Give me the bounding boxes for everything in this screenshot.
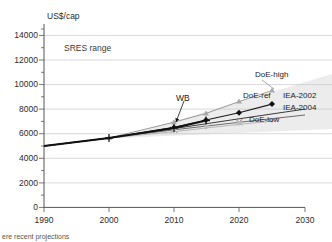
series-label-iea-2004: IEA-2004 — [283, 104, 316, 112]
ytick-label-12000: 12000 — [0, 56, 38, 65]
x-axis-ticks — [44, 207, 305, 212]
xtick-label-2030: 2030 — [285, 216, 325, 225]
ytick-label-0: 0 — [0, 203, 38, 212]
chart-container: US$/cap 14000 12000 10000 8000 6000 4000… — [0, 0, 332, 242]
y-axis-title: US$/cap — [47, 12, 80, 21]
ytick-label-8000: 8000 — [0, 105, 38, 114]
ytick-label-2000: 2000 — [0, 179, 38, 188]
ytick-label-14000: 14000 — [0, 31, 38, 40]
series-label-doe-ref: DoE-ref — [243, 92, 271, 100]
ytick-label-10000: 10000 — [0, 80, 38, 89]
annotation-sres-range: SRES range — [64, 44, 111, 53]
xtick-label-2010: 2010 — [154, 216, 194, 225]
y-axis-ticks — [39, 29, 44, 207]
ytick-label-6000: 6000 — [0, 129, 38, 138]
chart-plot — [0, 0, 332, 242]
annotation-wb: WB — [176, 94, 190, 103]
xtick-label-1990: 1990 — [24, 216, 64, 225]
series-label-doe-low: DoE-low — [249, 116, 279, 124]
ytick-label-4000: 4000 — [0, 154, 38, 163]
figure-caption: ere recent projections — [2, 233, 202, 242]
series-label-doe-high: DoE-high — [255, 71, 288, 79]
series-label-iea-2002: IEA-2002 — [283, 92, 316, 100]
xtick-label-2000: 2000 — [89, 216, 129, 225]
xtick-label-2020: 2020 — [219, 216, 259, 225]
